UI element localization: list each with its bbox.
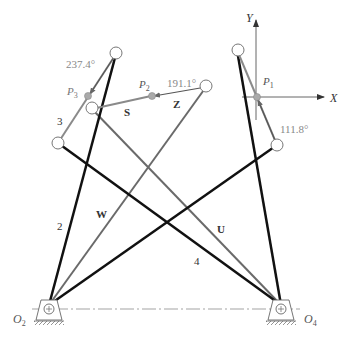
label-W: W: [96, 208, 107, 220]
joint-S-left: [86, 102, 98, 114]
vector-P1: [258, 100, 277, 145]
label-Z: Z: [173, 98, 180, 110]
coordinate-axes: [242, 20, 324, 120]
label-link-4: 4: [194, 255, 200, 267]
point-P1: [254, 94, 261, 101]
angle-237: 237.4°: [66, 58, 95, 70]
x-axis-label: X: [329, 91, 338, 105]
label-U: U: [217, 223, 225, 235]
joint-Z-right: [200, 80, 212, 92]
label-S: S: [124, 106, 130, 118]
angle-111: 111.8°: [280, 123, 308, 135]
link-2: [49, 54, 116, 305]
label-link-3: 3: [57, 115, 63, 127]
ground-pivot-O2: [34, 300, 64, 325]
vector-S: [92, 96, 151, 109]
joint-top-left: [110, 47, 122, 59]
y-axis-label: Y: [246, 11, 254, 25]
label-O4: O4: [304, 312, 317, 328]
point-P2: [149, 93, 156, 100]
label-P1: P1: [262, 75, 274, 90]
joint-left: [52, 137, 64, 149]
angle-191: 191.1°: [167, 77, 196, 89]
label-P3: P3: [66, 85, 78, 100]
label-link-2: 2: [57, 220, 63, 232]
linkage-diagram: Y X P1 P2 P3 237.4° 191.1° 111.8° 3 S Z …: [0, 0, 357, 346]
link-4-left-bar: [58, 143, 281, 305]
link-from-O2-to-right: [49, 145, 277, 305]
joint-right: [271, 139, 283, 151]
joint-top-right: [232, 44, 244, 56]
label-P2: P2: [138, 78, 150, 93]
point-P3: [85, 93, 92, 100]
ground-pivot-O4: [266, 300, 296, 325]
label-O2: O2: [13, 312, 26, 328]
